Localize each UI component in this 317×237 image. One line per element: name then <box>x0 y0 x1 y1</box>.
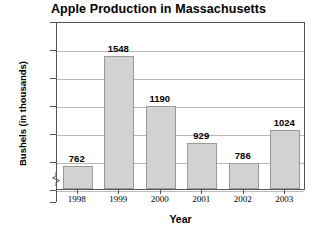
bar-value-label: 929 <box>176 131 226 141</box>
x-tick-mark <box>160 190 161 194</box>
y-tick-mark <box>50 78 56 79</box>
x-tick-label: 2003 <box>259 194 309 204</box>
y-tick-mark <box>50 106 56 107</box>
bar-value-label: 1190 <box>135 94 185 104</box>
bar <box>146 106 176 189</box>
bar <box>229 163 259 189</box>
x-tick-mark <box>243 190 244 194</box>
bar-chart: Apple Production in Massachusetts Bushel… <box>0 0 317 237</box>
gridline <box>57 107 304 108</box>
gridline <box>57 79 304 80</box>
gridline <box>57 191 304 192</box>
axis-break-icon <box>51 172 61 186</box>
y-tick-mark <box>50 134 56 135</box>
x-axis-title: Year <box>56 213 305 225</box>
bar <box>187 143 217 189</box>
bar-value-label: 786 <box>218 151 268 161</box>
bar <box>270 130 300 189</box>
y-tick-mark <box>50 50 56 51</box>
y-axis-title: Bushels (in thousands) <box>17 34 28 194</box>
x-tick-mark <box>77 190 78 194</box>
bar <box>63 166 93 189</box>
x-tick-mark <box>284 190 285 194</box>
bar-value-label: 762 <box>52 154 102 164</box>
bar-value-label: 1548 <box>93 44 143 54</box>
bar-value-label: 1024 <box>259 118 309 128</box>
x-tick-mark <box>118 190 119 194</box>
x-tick-mark <box>201 190 202 194</box>
bar <box>104 56 134 189</box>
y-tick-mark <box>50 22 56 23</box>
chart-title: Apple Production in Massachusetts <box>0 2 317 17</box>
